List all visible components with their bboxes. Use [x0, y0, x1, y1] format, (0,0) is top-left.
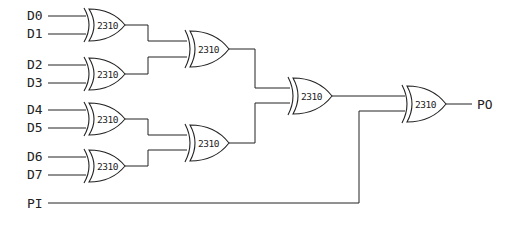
gate-label: 2310	[415, 99, 437, 110]
gate-label: 2310	[97, 69, 119, 80]
input-label-d0: D0	[27, 8, 43, 23]
xor-gate-4: 2310	[84, 149, 125, 183]
input-label-d2: D2	[27, 57, 43, 72]
xor-gate-1: 2310	[84, 8, 125, 42]
input-label-d1: D1	[27, 26, 43, 41]
input-label-d5: D5	[27, 120, 43, 135]
input-wires	[48, 16, 86, 175]
input-label-d3: D3	[27, 75, 43, 90]
input-label-d7: D7	[27, 167, 43, 182]
input-label-d4: D4	[27, 102, 43, 117]
input-label-d6: D6	[27, 149, 43, 164]
gate-label: 2310	[198, 138, 220, 149]
xor-gate-5: 2310	[185, 30, 229, 68]
gate-label: 2310	[97, 114, 119, 125]
xor-gate-8: 2310	[402, 85, 446, 123]
level1-output-wires	[125, 25, 187, 166]
gate-label: 2310	[97, 20, 119, 31]
gate-label: 2310	[301, 91, 323, 102]
level2-output-wires	[229, 49, 290, 143]
gate-label: 2310	[198, 44, 220, 55]
xor-gate-6: 2310	[185, 124, 229, 162]
xor-gate-3: 2310	[84, 102, 125, 136]
output-label-po: PO	[477, 97, 493, 112]
input-label-pi: PI	[27, 196, 43, 211]
gate-label: 2310	[97, 161, 119, 172]
parity-tree-diagram: D0 D1 D2 D3 D4 D5 D6 D7 PI 2310 2310 231…	[0, 0, 521, 229]
xor-gate-2: 2310	[84, 57, 125, 91]
xor-gate-7: 2310	[288, 77, 332, 115]
